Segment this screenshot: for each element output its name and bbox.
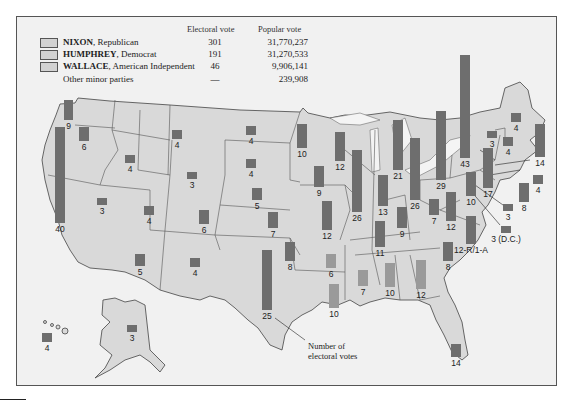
bar-co — [199, 210, 209, 224]
bar-tn — [375, 221, 385, 247]
bar-nh — [503, 137, 513, 146]
bar-sc — [443, 242, 453, 261]
bar-wa — [64, 100, 73, 120]
bar-ny — [460, 55, 470, 158]
bar-ma — [535, 124, 545, 157]
bar-oh — [410, 138, 420, 200]
bar-ia — [314, 166, 324, 187]
bar-label-sd: 4 — [236, 169, 266, 179]
bar-in — [378, 175, 388, 206]
bar-label-hi: 4 — [32, 343, 62, 353]
hawaii-island — [62, 328, 68, 334]
bar-ne — [252, 188, 262, 200]
bar-hi — [42, 333, 52, 342]
annotation-line1: Number of — [308, 341, 357, 351]
legend-electoral: — — [200, 74, 230, 84]
legend-popular: 31,770,237 — [248, 37, 308, 47]
bar-label-al: 10 — [375, 288, 405, 298]
bar-nj — [483, 148, 493, 188]
bar-ca — [55, 127, 65, 223]
legend-electoral: 191 — [200, 49, 230, 59]
bar-label-az: 5 — [125, 267, 155, 277]
annotation-line2: electoral votes — [308, 351, 357, 361]
bar-label-me: 4 — [501, 123, 531, 133]
bar-sd — [246, 159, 256, 168]
bar-label-or: 6 — [69, 142, 99, 152]
bar-label-ma: 14 — [525, 158, 555, 168]
legend-candidate: WALLACE — [63, 61, 109, 71]
bar-label-co: 6 — [189, 225, 219, 235]
bar-label-nm: 4 — [180, 268, 210, 278]
legend-electoral: 301 — [200, 37, 230, 47]
bar-wv — [429, 199, 439, 215]
hawaii-island — [51, 324, 54, 327]
bar-or — [79, 127, 89, 141]
bar-label-ut: 4 — [134, 216, 164, 226]
bar-label-ct: 8 — [509, 203, 539, 213]
hawaii-island — [56, 325, 60, 329]
bar-mn — [297, 124, 307, 148]
hawaii-island — [44, 321, 47, 324]
legend-swatch-wallace — [40, 62, 58, 72]
bar-fl — [451, 344, 461, 357]
bar-label-nd: 4 — [236, 136, 266, 146]
legend-popular: 31,270,533 — [248, 49, 308, 59]
bar-label-mn: 10 — [287, 149, 317, 159]
bar-mo — [322, 201, 332, 230]
bar-label-tn: 11 — [365, 248, 395, 258]
annotation-number-of-electoral-votes: Number of electoral votes — [308, 341, 357, 361]
bar-nd — [246, 126, 256, 135]
legend-party: , American Independent — [109, 61, 195, 71]
bar-vt — [487, 131, 497, 138]
legend-popular: 9,906,141 — [248, 61, 308, 71]
bar-label-tx: 25 — [252, 311, 282, 321]
legend-electoral: 46 — [200, 61, 230, 71]
bar-label-dc: 3 (D.C.) — [481, 234, 531, 244]
bar-label-la: 10 — [319, 309, 349, 319]
bar-label-ak: 3 — [117, 333, 147, 343]
bar-ak — [127, 325, 137, 332]
bar-label-id: 4 — [115, 164, 145, 174]
bar-label-wi: 12 — [325, 162, 355, 172]
bar-label-mt: 4 — [162, 140, 192, 150]
legend-candidate: HUMPHREY — [63, 49, 117, 59]
bar-me — [511, 113, 521, 122]
bar-ar — [326, 254, 336, 268]
bar-label-ga: 12 — [406, 290, 436, 300]
bar-az — [135, 254, 145, 266]
bar-label-sc: 8 — [433, 262, 463, 272]
bar-wy — [187, 172, 197, 179]
bar-ms — [358, 270, 368, 286]
legend-popular: 239,908 — [248, 74, 308, 84]
bar-label-de: 3 — [493, 212, 523, 222]
bar-mt — [172, 130, 182, 139]
bar-label-ky: 9 — [387, 229, 417, 239]
legend-party: Other minor parties — [63, 74, 133, 84]
bar-ct — [519, 183, 529, 202]
bar-label-mo: 12 — [312, 231, 342, 241]
bar-label-in: 13 — [368, 207, 398, 217]
bar-ut — [144, 206, 154, 215]
bar-label-oh: 26 — [400, 201, 430, 211]
legend-candidate: NIXON — [63, 37, 93, 47]
bar-al — [385, 263, 395, 287]
legend-party: , Democrat — [117, 49, 157, 59]
bar-label-nc: 12-R/1-A — [446, 245, 496, 255]
bar-wi — [335, 132, 345, 161]
bar-label-ar: 6 — [316, 269, 346, 279]
legend-swatch-humphrey — [40, 50, 58, 60]
bar-ga — [416, 260, 426, 289]
bar-label-ms: 7 — [348, 287, 378, 297]
bar-ok — [285, 242, 295, 261]
bar-label-ny: 43 — [450, 159, 480, 169]
bar-nm — [190, 258, 200, 267]
bar-label-ca: 40 — [45, 224, 75, 234]
bar-dc — [501, 226, 511, 233]
bar-label-wy: 3 — [177, 180, 207, 190]
bar-label-ks: 7 — [258, 229, 288, 239]
bar-va — [446, 192, 456, 221]
legend-header-electoral: Electoral vote — [187, 24, 234, 34]
bar-pa — [436, 111, 446, 180]
bar-label-pa: 29 — [426, 181, 456, 191]
bar-label-nh: 4 — [493, 147, 523, 157]
